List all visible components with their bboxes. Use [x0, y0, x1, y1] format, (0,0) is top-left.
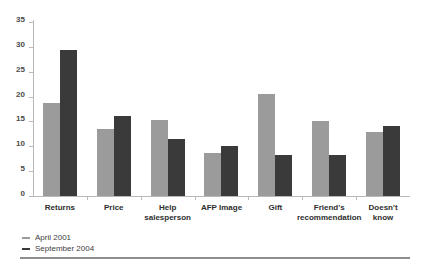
x-axis-category-label: Doesn't know	[346, 203, 420, 222]
bar-group	[356, 22, 410, 196]
bar-september-2004	[329, 155, 346, 196]
legend-item-label: September 2004	[35, 244, 94, 253]
legend-item[interactable]: April 2001	[22, 232, 94, 243]
bar-group	[302, 22, 356, 196]
bar-september-2004	[168, 139, 185, 196]
bar-group-bars	[356, 22, 410, 196]
legend-item[interactable]: September 2004	[22, 243, 94, 254]
y-axis-tick-label: 10	[16, 140, 25, 148]
bar-group-bars	[248, 22, 302, 196]
x-axis-line	[33, 196, 410, 197]
bar-april-2001	[258, 94, 275, 196]
legend-swatch-icon	[22, 237, 30, 239]
legend-item-label: April 2001	[35, 233, 71, 242]
bar-april-2001	[151, 120, 168, 196]
bar-group	[195, 22, 249, 196]
bar-group	[141, 22, 195, 196]
bar-group-bars	[141, 22, 195, 196]
bar-chart: 05101520253035 ReturnsPriceHelp salesper…	[0, 0, 430, 270]
y-axis-tick-label: 35	[16, 16, 25, 24]
bar-september-2004	[221, 146, 238, 196]
y-axis-tick-label: 0	[21, 190, 25, 198]
y-axis-tick-label: 30	[16, 41, 25, 49]
bar-april-2001	[43, 103, 60, 196]
bar-group	[33, 22, 87, 196]
bar-april-2001	[366, 132, 383, 196]
bottom-divider	[20, 257, 410, 259]
x-axis-tick-mark	[248, 196, 249, 200]
y-axis-tick-mark	[29, 196, 33, 197]
bar-april-2001	[97, 129, 114, 196]
bar-april-2001	[204, 153, 221, 196]
x-axis-tick-mark	[87, 196, 88, 200]
bar-group-bars	[302, 22, 356, 196]
x-axis-tick-mark	[195, 196, 196, 200]
chart-legend: April 2001September 2004	[22, 232, 94, 254]
bar-september-2004	[275, 155, 292, 196]
legend-swatch-icon	[22, 248, 30, 250]
bar-september-2004	[60, 50, 77, 196]
y-axis-tick-label: 25	[16, 66, 25, 74]
x-axis-tick-mark	[356, 196, 357, 200]
bar-group-bars	[87, 22, 141, 196]
bar-april-2001	[312, 121, 329, 196]
y-axis-tick-label: 5	[21, 165, 25, 173]
x-axis-tick-mark	[302, 196, 303, 200]
bar-september-2004	[383, 126, 400, 196]
y-axis-tick-label: 20	[16, 91, 25, 99]
x-axis-tick-mark	[141, 196, 142, 200]
bar-september-2004	[114, 116, 131, 196]
bar-group-bars	[33, 22, 87, 196]
y-axis-tick-label: 15	[16, 115, 25, 123]
plot-area	[33, 22, 410, 196]
bar-group-bars	[195, 22, 249, 196]
bar-group	[248, 22, 302, 196]
bar-group	[87, 22, 141, 196]
